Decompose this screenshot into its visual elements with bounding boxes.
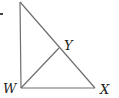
label-x: X	[99, 82, 110, 97]
cropped-mark	[0, 13, 3, 15]
segment-top-w	[20, 2, 21, 88]
label-y: Y	[64, 38, 74, 53]
triangle-diagram: W X Y	[0, 0, 119, 98]
segment-w-y	[21, 48, 59, 88]
segment-hypotenuse	[20, 2, 95, 88]
label-w: W	[3, 81, 18, 96]
